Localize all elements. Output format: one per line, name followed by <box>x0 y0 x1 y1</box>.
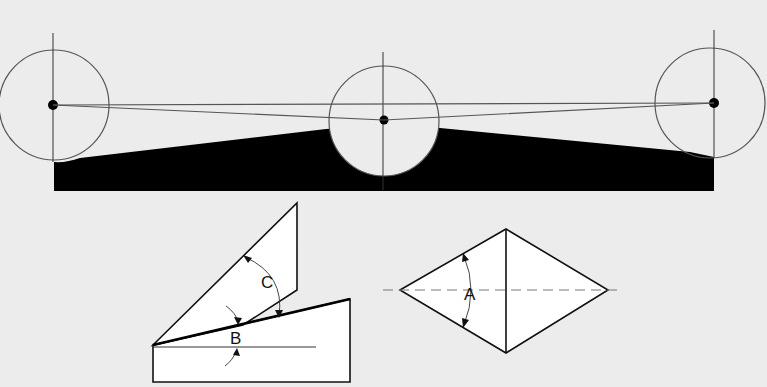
wheel-left <box>0 33 109 162</box>
diamond-angle-diagram: A <box>383 229 620 353</box>
angle-c-label: C <box>261 273 273 292</box>
angle-b-label: B <box>230 329 241 348</box>
blade-bevel-diagram: C B <box>153 203 350 382</box>
angle-a-label: A <box>464 285 476 304</box>
diagram-canvas: C B A <box>0 0 767 387</box>
diamond-shape <box>400 229 608 353</box>
wheel-right <box>655 30 765 158</box>
